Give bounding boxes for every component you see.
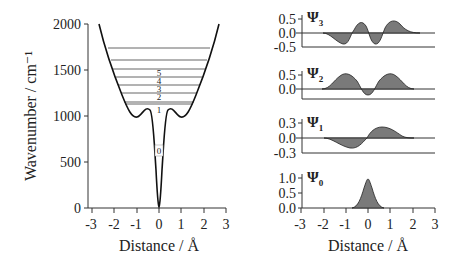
figure: 2000 1500 1000 500 0 -3 -2 -1 0 1 2 3 Di… — [0, 0, 459, 264]
xtick-neg1: -1 — [130, 217, 142, 232]
rxtick-neg2: -2 — [317, 217, 329, 232]
psi0-ytick-0.5: 0.5 — [279, 186, 297, 201]
xtick-0: 0 — [156, 217, 163, 232]
left-y-tick-labels: 2000 1500 1000 500 0 — [53, 17, 81, 216]
psi0-subplot: 1.0 0.5 0.0 Ψ0 — [279, 169, 436, 216]
ytick-0: 0 — [74, 201, 81, 216]
psi1-label: Ψ1 — [307, 114, 324, 133]
psi2-subplot: 0.5 0.0 Ψ2 — [279, 65, 436, 99]
right-x-ticks — [301, 208, 435, 213]
right-x-tick-labels: -3 -2 -1 0 1 2 3 — [294, 217, 438, 232]
psi1-subplot: 0.3 0.0 -0.3 Ψ1 — [274, 114, 435, 161]
psi3-subplot: 0.5 0.0 -0.5 Ψ3 — [274, 9, 435, 55]
psi2-ytick-0.5: 0.5 — [279, 68, 297, 83]
level-label-0: 0 — [157, 146, 162, 156]
ytick-500: 500 — [60, 155, 81, 170]
rxtick-2: 2 — [410, 217, 417, 232]
psi1-ytick-0.0: 0.0 — [279, 131, 297, 146]
level-label-1: 1 — [157, 105, 162, 115]
psi2-ytick-0.0: 0.0 — [279, 82, 297, 97]
left-x-tick-labels: -3 -2 -1 0 1 2 3 — [85, 217, 229, 232]
psi1-ytick-neg0.3: -0.3 — [274, 146, 296, 161]
psi2-label: Ψ2 — [307, 65, 324, 84]
ytick-2000: 2000 — [53, 17, 81, 32]
level-labels: 5 4 3 2 1 0 — [155, 68, 163, 156]
ytick-1500: 1500 — [53, 63, 81, 78]
xtick-neg3: -3 — [85, 217, 97, 232]
psi2-curve — [322, 74, 414, 95]
xtick-neg2: -2 — [108, 217, 120, 232]
left-x-axis-title: Distance / Å — [119, 237, 199, 254]
potential-panel: 2000 1500 1000 500 0 -3 -2 -1 0 1 2 3 Di… — [22, 17, 230, 254]
rxtick-neg3: -3 — [294, 217, 306, 232]
rxtick-0: 0 — [365, 217, 372, 232]
psi0-curve — [352, 179, 384, 208]
psi3-label: Ψ3 — [307, 9, 324, 28]
xtick-1: 1 — [178, 217, 185, 232]
rxtick-3: 3 — [432, 217, 439, 232]
ytick-1000: 1000 — [53, 109, 81, 124]
rxtick-1: 1 — [387, 217, 394, 232]
psi3-ytick-0.5: 0.5 — [279, 12, 297, 27]
left-y-ticks — [84, 24, 88, 208]
level-label-2: 2 — [157, 92, 162, 102]
psi1-ytick-0.3: 0.3 — [279, 116, 297, 131]
psi3-ytick-0.0: 0.0 — [279, 26, 297, 41]
psi3-ytick-neg0.5: -0.5 — [274, 40, 296, 55]
xtick-3: 3 — [223, 217, 230, 232]
rxtick-neg1: -1 — [339, 217, 351, 232]
wavefunction-panel: 0.5 0.0 -0.5 Ψ3 0.5 0.0 Ψ2 0.3 0.0 -0.3 — [274, 9, 439, 254]
psi0-label: Ψ0 — [307, 169, 324, 188]
psi0-ytick-1.0: 1.0 — [279, 171, 297, 186]
right-x-axis-title: Distance / Å — [328, 237, 408, 254]
potential-curve — [99, 24, 219, 207]
xtick-2: 2 — [201, 217, 208, 232]
psi0-ytick-0.0: 0.0 — [279, 201, 297, 216]
left-y-axis-title: Wavenumber / cm⁻¹ — [22, 51, 39, 181]
